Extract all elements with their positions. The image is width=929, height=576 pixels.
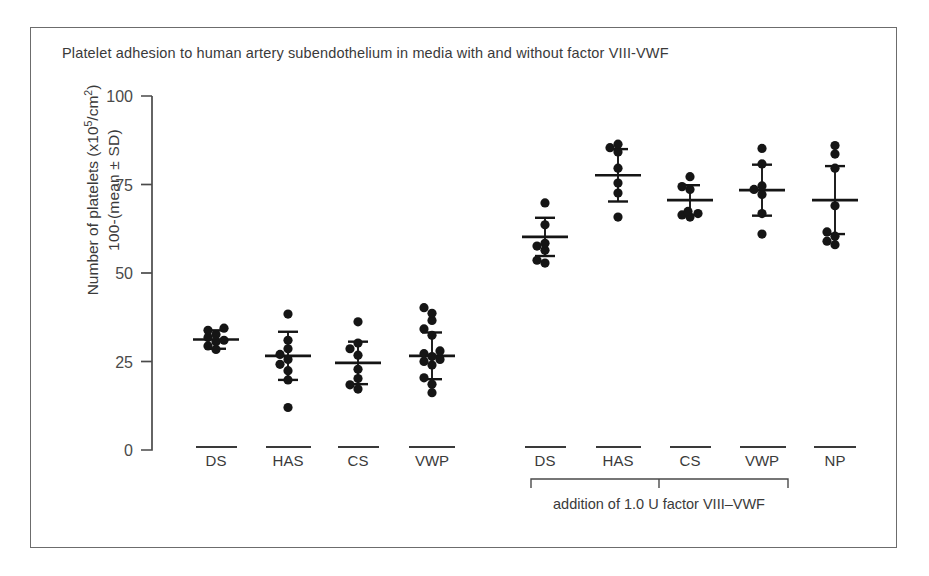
data-point — [427, 352, 436, 361]
data-group-has-6 — [595, 140, 641, 222]
data-point — [830, 232, 839, 241]
y-tick-label-0: 0 — [124, 442, 133, 459]
data-point — [613, 212, 622, 221]
x-label-ds-2: DS — [535, 452, 556, 469]
data-point — [283, 366, 292, 375]
group-bracket: addition of 1.0 U factor VIII–VWF — [531, 479, 788, 512]
data-point — [613, 164, 622, 173]
data-point — [757, 181, 766, 190]
data-point — [540, 220, 549, 229]
y-tick-label-50: 50 — [115, 265, 133, 282]
data-point — [830, 141, 839, 150]
figure-root: Platelet adhesion to human artery subend… — [0, 0, 929, 576]
data-group-cs-3 — [335, 317, 381, 393]
data-point — [203, 326, 212, 335]
x-label-cs-2: CS — [680, 452, 701, 469]
x-label-vwp-2: VWP — [745, 452, 779, 469]
data-group-ds-1 — [193, 324, 239, 354]
y-tick-label-25: 25 — [115, 354, 133, 371]
data-point — [605, 143, 614, 152]
data-point — [427, 309, 436, 318]
data-point — [830, 164, 839, 173]
data-point — [757, 159, 766, 168]
data-point — [219, 324, 228, 333]
data-point — [427, 388, 436, 397]
data-group-vwp-8 — [739, 144, 785, 239]
data-point — [353, 385, 362, 394]
data-point — [353, 351, 362, 360]
plot-area: 100 75 50 25 0 DS HAS CS VWP DS HAS CS V… — [0, 0, 929, 576]
data-point — [749, 185, 758, 194]
data-point — [532, 241, 541, 250]
data-point — [613, 188, 622, 197]
data-point — [283, 375, 292, 384]
data-point — [435, 346, 444, 355]
x-label-ds-1: DS — [206, 452, 227, 469]
data-point — [757, 229, 766, 238]
data-point — [540, 258, 549, 267]
data-point — [419, 373, 428, 382]
data-point — [353, 374, 362, 383]
data-point — [532, 256, 541, 265]
data-point — [419, 324, 428, 333]
data-point — [419, 349, 428, 358]
data-point — [283, 344, 292, 353]
data-point — [275, 350, 284, 359]
data-point — [830, 149, 839, 158]
data-point — [435, 355, 444, 364]
data-point — [427, 380, 436, 389]
y-tick-label-75: 75 — [115, 177, 133, 194]
data-point — [830, 240, 839, 249]
data-point — [685, 185, 694, 194]
data-series-layer — [193, 140, 858, 413]
data-point — [419, 303, 428, 312]
y-axis: 100 75 50 25 0 — [106, 88, 152, 459]
data-point — [345, 380, 354, 389]
data-point — [757, 190, 766, 199]
data-point — [427, 331, 436, 340]
data-point — [275, 360, 284, 369]
data-point — [540, 198, 549, 207]
data-point — [540, 239, 549, 248]
x-label-vwp-1: VWP — [415, 452, 449, 469]
x-label-np: NP — [825, 452, 846, 469]
bracket-caption: addition of 1.0 U factor VIII–VWF — [553, 496, 765, 512]
data-point — [683, 207, 692, 216]
data-point — [283, 309, 292, 318]
data-group-np-9 — [812, 141, 858, 249]
data-point — [830, 201, 839, 210]
data-point — [353, 317, 362, 326]
data-point — [613, 178, 622, 187]
data-point — [613, 140, 622, 149]
data-point — [203, 341, 212, 350]
data-point — [283, 336, 292, 345]
x-axis-categories: DS HAS CS VWP DS HAS CS VWP NP — [196, 447, 856, 469]
data-point — [693, 209, 702, 218]
data-point — [822, 237, 831, 246]
data-point — [353, 338, 362, 347]
data-point — [757, 144, 766, 153]
data-group-vwp-4 — [409, 303, 455, 397]
bracket-path — [531, 479, 788, 488]
x-label-has-1: HAS — [273, 452, 304, 469]
data-point — [822, 227, 831, 236]
data-group-cs-7 — [667, 172, 713, 222]
data-point — [757, 209, 766, 218]
data-group-has-2 — [265, 309, 311, 412]
data-point — [685, 172, 694, 181]
data-point — [283, 403, 292, 412]
data-point — [427, 360, 436, 369]
x-label-cs-1: CS — [348, 452, 369, 469]
x-label-has-2: HAS — [603, 452, 634, 469]
data-point — [219, 336, 228, 345]
y-tick-label-100: 100 — [106, 88, 133, 105]
data-group-ds-5 — [522, 198, 568, 267]
data-point — [677, 182, 686, 191]
data-point — [345, 344, 354, 353]
data-point — [353, 365, 362, 374]
data-point — [211, 330, 220, 339]
data-point — [283, 355, 292, 364]
